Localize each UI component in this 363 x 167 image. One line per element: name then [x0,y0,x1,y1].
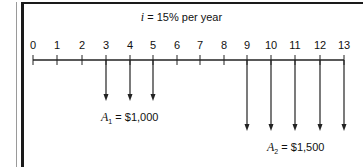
arrow-head-icon [342,124,347,131]
arrow-head-icon [151,94,156,101]
period-label: 0 [30,39,36,51]
period-label: 6 [174,39,180,51]
arrow-head-icon [128,94,133,101]
period-label: 10 [265,39,277,51]
period-label: 11 [289,39,300,51]
arrow-head-icon [293,124,298,131]
arrow-head-icon [104,94,109,101]
period-label: 7 [197,39,203,51]
period-label: 4 [127,39,133,51]
period-label: 2 [79,39,85,51]
arrow-head-icon [269,124,274,131]
period-label: 3 [103,39,109,51]
period-label: 13 [338,39,350,51]
arrow-head-icon [318,124,323,131]
period-label: 8 [221,39,227,51]
period-label: 9 [244,39,250,51]
period-label: 1 [54,39,60,51]
series-label-a1: A1 = $1,000 [101,110,158,125]
series-label-a2: A2 = $1,500 [267,140,324,155]
arrow-head-icon [245,124,250,131]
period-label: 5 [150,39,156,51]
period-label: 12 [314,39,326,51]
